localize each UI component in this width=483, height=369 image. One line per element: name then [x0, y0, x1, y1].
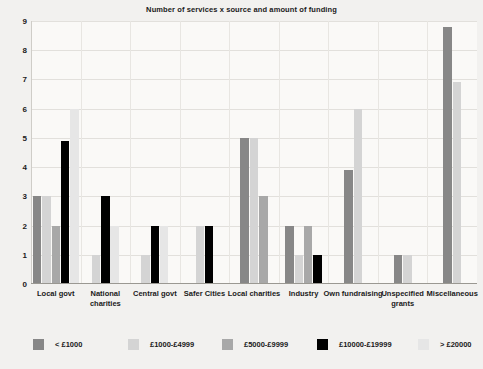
plot-area [31, 21, 477, 284]
legend-swatch-icon [418, 339, 429, 350]
legend-label: < £1000 [55, 340, 82, 349]
y-axis-tick-label: 4 [3, 163, 27, 172]
bar [205, 226, 214, 284]
bar [52, 226, 61, 284]
legend-item: £1000-£4999 [128, 336, 194, 352]
bar [196, 226, 205, 284]
legend-item: £10000-£19999 [317, 336, 392, 352]
y-axis-tick-label: 7 [3, 75, 27, 84]
y-axis-tick-label: 3 [3, 192, 27, 201]
category-divider [229, 21, 230, 284]
bar [304, 226, 313, 284]
legend-label: > £20000 [440, 340, 472, 349]
category-divider [279, 21, 280, 284]
bar [92, 255, 101, 284]
gridline [31, 79, 477, 80]
y-axis-tick-label: 1 [3, 250, 27, 259]
category-divider [427, 21, 428, 284]
legend-swatch-icon [33, 339, 44, 350]
y-axis-tick-label: 8 [3, 46, 27, 55]
legend-label: £10000-£19999 [339, 340, 392, 349]
bar [42, 196, 51, 284]
bar [295, 255, 304, 284]
category-divider [180, 21, 181, 284]
bar [110, 226, 119, 284]
bar [240, 138, 249, 284]
bar [394, 255, 403, 284]
x-axis-tick-label: Miscellaneous [421, 289, 483, 299]
legend-swatch-icon [317, 339, 328, 350]
gridline [31, 21, 477, 22]
bar [453, 82, 462, 284]
bar [33, 196, 42, 284]
category-divider [328, 21, 329, 284]
bar [151, 226, 160, 284]
legend-item: < £1000 [33, 336, 82, 352]
legend-swatch-icon [128, 339, 139, 350]
bar [313, 255, 322, 284]
bar [101, 196, 110, 284]
y-axis-line [31, 21, 32, 284]
y-axis: 0123456789 [0, 21, 27, 284]
bar-chart: Number of services x source and amount o… [0, 0, 483, 369]
chart-legend: < £1000£1000-£4999£5000-£9999£10000-£199… [0, 336, 483, 358]
legend-label: £5000-£9999 [244, 340, 288, 349]
category-divider [378, 21, 379, 284]
bar [403, 255, 412, 284]
gridline [31, 50, 477, 51]
legend-swatch-icon [222, 339, 233, 350]
bar [443, 27, 452, 284]
bar [70, 109, 79, 284]
bar [285, 226, 294, 284]
chart-title: Number of services x source and amount o… [0, 5, 483, 14]
bar [354, 109, 363, 284]
y-axis-tick-label: 5 [3, 133, 27, 142]
bar [250, 138, 259, 284]
x-axis-line [31, 283, 477, 284]
bar [259, 196, 268, 284]
y-axis-tick-label: 2 [3, 221, 27, 230]
category-divider [130, 21, 131, 284]
y-axis-tick-label: 0 [3, 280, 27, 289]
category-divider [81, 21, 82, 284]
y-axis-tick-label: 9 [3, 17, 27, 26]
gridline [31, 109, 477, 110]
y-axis-tick-label: 6 [3, 104, 27, 113]
legend-label: £1000-£4999 [150, 340, 194, 349]
bar [160, 226, 169, 284]
bar [141, 255, 150, 284]
bar [61, 141, 70, 284]
legend-item: £5000-£9999 [222, 336, 288, 352]
bar [344, 170, 353, 284]
legend-item: > £20000 [418, 336, 472, 352]
